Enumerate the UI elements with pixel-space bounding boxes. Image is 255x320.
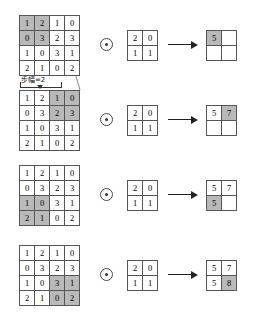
input-cell: 3	[65, 31, 80, 46]
input-matrix-step-4: 1 2 1 0 0 3 2 3 1 0 3 1 2 1 0 2	[19, 245, 80, 306]
input-cell: 0	[50, 61, 65, 76]
convolution-operator-icon	[100, 268, 113, 281]
input-cell: 0	[50, 136, 65, 151]
input-cell: 3	[65, 106, 80, 121]
kernel-cell: 1	[143, 46, 158, 61]
arrow-head	[191, 271, 198, 279]
output-cell	[222, 46, 237, 61]
input-cell: 1	[35, 211, 50, 226]
input-cell: 0	[35, 276, 50, 291]
output-cell	[222, 196, 237, 211]
input-cell: 1	[65, 196, 80, 211]
input-cell: 1	[35, 291, 50, 306]
kernel-cell: 1	[143, 276, 158, 291]
kernel-cell: 0	[143, 261, 158, 276]
input-cell: 2	[20, 211, 35, 226]
input-cell: 2	[50, 181, 65, 196]
output-cell: 7	[222, 106, 237, 121]
kernel-matrix-step-2: 2 0 1 1	[127, 105, 158, 136]
input-cell: 0	[20, 261, 35, 276]
arrow-shaft	[168, 194, 193, 195]
kernel-cell: 2	[128, 261, 143, 276]
input-cell: 1	[50, 16, 65, 31]
input-cell: 1	[65, 276, 80, 291]
input-cell: 2	[20, 291, 35, 306]
kernel-cell: 0	[143, 181, 158, 196]
input-cell: 1	[50, 166, 65, 181]
input-cell: 3	[35, 31, 50, 46]
input-cell: 1	[20, 166, 35, 181]
input-cell: 3	[65, 261, 80, 276]
kernel-cell: 2	[128, 181, 143, 196]
input-cell: 1	[20, 196, 35, 211]
input-cell: 0	[65, 246, 80, 261]
kernel-cell: 1	[143, 196, 158, 211]
result-arrow-icon	[168, 190, 198, 199]
kernel-cell: 1	[143, 121, 158, 136]
input-cell: 2	[65, 136, 80, 151]
input-cell: 2	[35, 166, 50, 181]
input-cell: 1	[20, 246, 35, 261]
input-cell: 2	[35, 246, 50, 261]
result-arrow-icon	[168, 115, 198, 124]
stride-label: 步幅=2	[21, 74, 45, 84]
stride-arrow-icon	[37, 85, 43, 89]
arrow-shaft	[168, 44, 193, 45]
stride-annotation: 步幅=2	[18, 75, 64, 88]
input-cell: 2	[20, 136, 35, 151]
arrow-head	[191, 41, 198, 49]
input-cell: 3	[50, 276, 65, 291]
input-cell: 2	[35, 16, 50, 31]
input-matrix-step-2: 1 2 1 0 0 3 2 3 1 0 3 1 2 1 0 2	[19, 90, 80, 151]
input-cell: 2	[65, 61, 80, 76]
output-cell: 5	[207, 181, 222, 196]
input-cell: 0	[50, 291, 65, 306]
kernel-cell: 1	[128, 46, 143, 61]
input-cell: 1	[35, 136, 50, 151]
kernel-cell: 2	[128, 106, 143, 121]
convolution-figure: 1 2 1 0 0 3 2 3 1 0 3 1 2 1 0 2 2 0 1 1 …	[0, 0, 255, 320]
input-cell: 2	[35, 91, 50, 106]
input-cell: 3	[35, 181, 50, 196]
input-cell: 3	[35, 261, 50, 276]
kernel-cell: 1	[128, 121, 143, 136]
operator-dot-icon	[105, 273, 108, 276]
input-cell: 0	[65, 91, 80, 106]
kernel-cell: 0	[143, 106, 158, 121]
output-cell: 5	[207, 276, 222, 291]
output-cell	[222, 31, 237, 46]
input-cell: 1	[65, 46, 80, 61]
input-cell: 0	[20, 31, 35, 46]
input-cell: 1	[65, 121, 80, 136]
input-cell: 2	[50, 261, 65, 276]
input-cell: 1	[20, 121, 35, 136]
output-cell: 5	[207, 31, 222, 46]
operator-dot-icon	[105, 43, 108, 46]
input-matrix-step-1: 1 2 1 0 0 3 2 3 1 0 3 1 2 1 0 2	[19, 15, 80, 76]
output-matrix-step-3: 5 7 5	[206, 180, 237, 211]
output-cell: 5	[207, 196, 222, 211]
output-cell: 8	[222, 276, 237, 291]
input-cell: 3	[50, 46, 65, 61]
output-cell: 5	[207, 261, 222, 276]
output-cell: 5	[207, 106, 222, 121]
output-cell	[207, 46, 222, 61]
convolution-operator-icon	[100, 113, 113, 126]
output-matrix-step-2: 5 7	[206, 105, 237, 136]
operator-dot-icon	[105, 193, 108, 196]
input-cell: 0	[20, 181, 35, 196]
input-cell: 0	[35, 196, 50, 211]
input-cell: 1	[20, 276, 35, 291]
input-cell: 2	[50, 106, 65, 121]
kernel-matrix-step-3: 2 0 1 1	[127, 180, 158, 211]
output-matrix-step-1: 5	[206, 30, 237, 61]
arrow-head	[191, 191, 198, 199]
input-cell: 0	[65, 166, 80, 181]
output-cell: 7	[222, 181, 237, 196]
kernel-matrix-step-4: 2 0 1 1	[127, 260, 158, 291]
input-cell: 3	[50, 196, 65, 211]
output-cell: 7	[222, 261, 237, 276]
input-cell: 1	[50, 91, 65, 106]
input-cell: 0	[65, 16, 80, 31]
input-cell: 1	[20, 16, 35, 31]
